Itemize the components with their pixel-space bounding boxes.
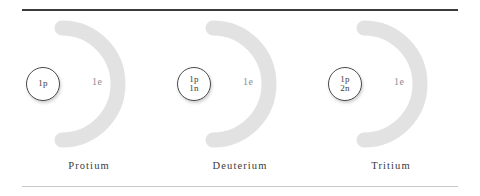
isotope-tritium: 1p 2n 1e Tritium [316, 14, 466, 184]
isotope-caption-deuterium: Deuterium [165, 160, 315, 171]
isotope-caption-protium: Protium [14, 160, 164, 171]
nucleus-tritium: 1p 2n [328, 67, 362, 101]
atom-diagram-tritium: 1p 2n 1e [316, 14, 466, 154]
nucleus-particle-label: 1n [189, 84, 198, 94]
isotope-caption-tritium: Tritium [316, 160, 466, 171]
atom-diagram-protium: 1p 1e [14, 14, 164, 154]
electron-count-label: 1e [92, 76, 102, 87]
figure-top-rule [22, 9, 458, 11]
nucleus-protium: 1p [26, 67, 60, 101]
isotope-figure-panel: 1p 1e Protium 1p 1n 1e Deuterium [0, 0, 480, 196]
nucleus-particle-label: 2n [340, 84, 349, 94]
electron-count-label: 1e [394, 76, 404, 87]
nucleus-particle-label: 1p [38, 79, 47, 89]
electron-count-label: 1e [243, 76, 253, 87]
atom-diagram-deuterium: 1p 1n 1e [165, 14, 315, 154]
isotope-row: 1p 1e Protium 1p 1n 1e Deuterium [0, 14, 480, 184]
nucleus-deuterium: 1p 1n [177, 67, 211, 101]
isotope-deuterium: 1p 1n 1e Deuterium [165, 14, 315, 184]
figure-bottom-rule [22, 186, 458, 187]
isotope-protium: 1p 1e Protium [14, 14, 164, 184]
